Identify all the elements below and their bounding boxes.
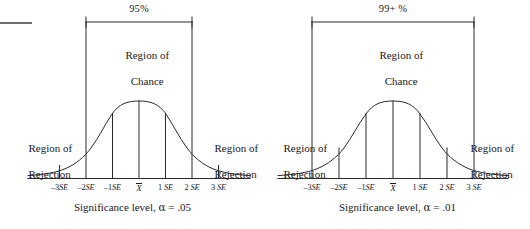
- figure-canvas: 95% Region of Chance Region of Rejection…: [0, 0, 530, 229]
- caption-value: .01: [442, 201, 456, 213]
- bracket-percent-label: 95%: [89, 3, 189, 14]
- caption-value: .05: [177, 201, 191, 213]
- bracket-percent-label: 99+ %: [343, 3, 443, 14]
- alpha-symbol: α: [159, 201, 166, 213]
- region-of-rejection-right-line-1: Region of: [215, 142, 259, 154]
- panel-caption: Significance level, α = .01: [265, 202, 530, 214]
- region-of-rejection-right-line-1: Region of: [471, 142, 515, 154]
- caption-equals: =: [433, 201, 439, 213]
- distribution-panel-right: 99+ % Region of Chance Region of Rejecti…: [265, 0, 530, 229]
- region-of-rejection-left-line-2: Rejection: [29, 168, 71, 180]
- panel-left-graphics: [0, 0, 265, 229]
- alpha-symbol: α: [424, 201, 431, 213]
- region-of-chance-label: Region of Chance: [89, 36, 189, 101]
- panel-caption: Significance level, α = .05: [0, 202, 265, 214]
- region-of-chance-line-1: Region of: [379, 49, 423, 61]
- distribution-panel-left: 95% Region of Chance Region of Rejection…: [0, 0, 265, 229]
- caption-prefix: Significance level,: [339, 201, 421, 213]
- region-of-rejection-left-line-1: Region of: [284, 142, 328, 154]
- region-of-chance-line-2: Chance: [385, 75, 418, 87]
- tick-label-pos3se: 3 SE: [456, 184, 492, 193]
- region-of-rejection-left-line-1: Region of: [29, 142, 73, 154]
- panel-right-graphics: [265, 0, 530, 229]
- region-of-chance-line-2: Chance: [131, 75, 164, 87]
- region-of-chance-label: Region of Chance: [343, 36, 443, 101]
- caption-prefix: Significance level,: [74, 201, 156, 213]
- region-of-rejection-right-line-2: Rejection: [215, 168, 257, 180]
- caption-equals: =: [168, 201, 174, 213]
- region-of-chance-line-1: Region of: [125, 49, 169, 61]
- tick-label-pos3se: 3 SE: [201, 184, 237, 193]
- region-of-rejection-left-line-2: Rejection: [284, 168, 326, 180]
- region-of-rejection-right-line-2: Rejection: [471, 168, 513, 180]
